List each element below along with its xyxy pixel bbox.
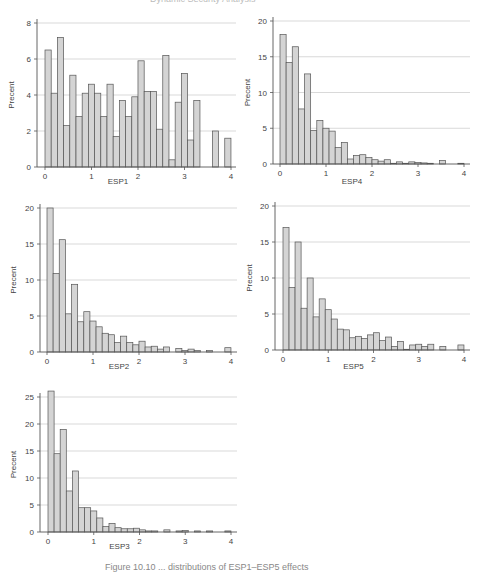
histogram-bar [103,527,109,532]
y-tick-label: 10 [25,474,34,483]
y-tick-label: 20 [25,420,34,429]
x-tick-label: 1 [92,537,97,546]
histogram-bar [109,523,115,532]
figure-caption: Figure 10.10 ... distributions of ESP1–E… [105,562,308,572]
histogram-bar [133,528,139,532]
x-axis-label: ESP3 [109,542,130,551]
x-tick-label: 4 [229,537,234,546]
histogram-bar [54,454,60,532]
y-tick-label: 5 [30,501,35,510]
histogram-bar [97,518,103,532]
histogram-bar [127,529,133,532]
x-tick-label: 3 [183,537,188,546]
histogram-bar [78,508,84,532]
y-axis-label: Precent [9,450,18,478]
histogram-bar [121,529,127,532]
histogram-bar [72,471,78,532]
histogram-bar [60,429,66,532]
y-tick-label: 15 [25,447,34,456]
histogram-bar [115,528,121,532]
x-tick-label: 2 [137,537,142,546]
histogram-bar [91,511,97,532]
histogram-bar [48,391,54,532]
histogram-bar [85,508,91,532]
y-tick-label: 0 [30,528,35,537]
y-tick-label: 25 [25,393,34,402]
x-tick-label: 0 [46,537,51,546]
histogram-bar [66,491,72,532]
